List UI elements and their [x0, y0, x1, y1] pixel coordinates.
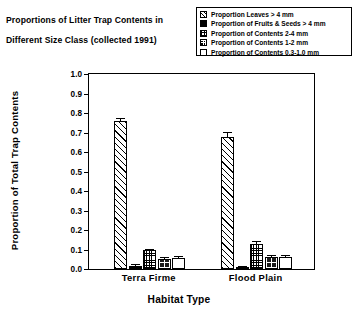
- bar: [250, 244, 263, 269]
- error-bar-stem: [164, 258, 165, 259]
- bar-group: [221, 74, 292, 269]
- bar-group: [114, 74, 185, 269]
- x-axis-group-label-flood-plain: Flood Plain: [196, 272, 316, 283]
- error-bar-stem: [135, 265, 136, 266]
- bar: [143, 250, 156, 269]
- error-bar-stem: [120, 119, 121, 121]
- y-axis-tick: [84, 133, 89, 134]
- y-axis-tick: [84, 172, 89, 173]
- legend-swatch-fruits-seeds-icon: [200, 20, 207, 27]
- y-axis-tick-label: 0.1: [71, 245, 82, 254]
- error-bar-cap: [160, 257, 169, 258]
- y-axis-tick-label: 0.3: [71, 206, 82, 215]
- error-bar-cap: [267, 255, 276, 256]
- error-bar-cap: [131, 264, 140, 265]
- legend-label-contents-2-4mm: Proportion of Contents 2-4 mm: [211, 29, 308, 38]
- legend-item-contents-2-4mm: Proportion of Contents 2-4 mm: [200, 29, 349, 38]
- error-bar-stem: [178, 257, 179, 258]
- y-axis-tick-label: 0.6: [71, 148, 82, 157]
- y-axis-tick: [84, 211, 89, 212]
- error-bar-stem: [149, 250, 150, 251]
- bar: [265, 257, 278, 269]
- y-axis-tick-label: 0.4: [71, 187, 82, 196]
- bar: [279, 257, 292, 269]
- error-bar-cap: [116, 118, 125, 119]
- chart-title-line-2: Different Size Class (collected 1991): [6, 30, 191, 50]
- y-axis-tick: [84, 94, 89, 95]
- legend-item-contents-03-10mm: Proportion of Contents 0.3-1.0 mm: [200, 48, 349, 57]
- y-axis-tick: [84, 230, 89, 231]
- plot-area: 0.00.10.20.30.40.50.60.70.80.91.0: [88, 73, 315, 270]
- x-axis-title: Habitat Type: [0, 294, 358, 305]
- legend-swatch-contents-1-2mm-icon: [200, 39, 207, 46]
- legend-item-leaves: Proportion Leaves > 4 mm: [200, 10, 349, 19]
- y-axis-tick: [84, 152, 89, 153]
- y-axis-tick: [84, 250, 89, 251]
- legend-label-leaves: Proportion Leaves > 4 mm: [211, 10, 294, 19]
- y-axis-tick-label: 0.8: [71, 109, 82, 118]
- chart-figure: Proportions of Litter Trap Contents in D…: [0, 0, 358, 318]
- error-bar-cap: [281, 255, 290, 256]
- legend-label-contents-03-10mm: Proportion of Contents 0.3-1.0 mm: [211, 48, 319, 57]
- legend-item-contents-1-2mm: Proportion of Contents 1-2 mm: [200, 38, 349, 47]
- bar: [114, 121, 127, 269]
- error-bar-cap: [252, 241, 261, 242]
- y-axis-tick: [84, 74, 89, 75]
- x-axis-group-label-terra-firme: Terra Firme: [89, 272, 209, 283]
- chart-legend: Proportion Leaves > 4 mm Proportion of F…: [196, 7, 352, 56]
- bar: [172, 258, 185, 269]
- legend-label-fruits-seeds: Proportion of Fruits & Seeds > 4 mm: [211, 19, 326, 28]
- error-bar-cap: [223, 132, 232, 133]
- bar: [129, 266, 142, 269]
- bar: [221, 137, 234, 269]
- error-bar-stem: [271, 256, 272, 257]
- error-bar-cap: [174, 256, 183, 257]
- y-axis-tick-label: 0.9: [71, 89, 82, 98]
- error-bar-stem: [285, 256, 286, 257]
- legend-item-fruits-seeds: Proportion of Fruits & Seeds > 4 mm: [200, 19, 349, 28]
- y-axis-title: Proportion of Total Trap Contents: [8, 73, 22, 268]
- y-axis-tick-label: 0.7: [71, 128, 82, 137]
- y-axis-tick: [84, 113, 89, 114]
- legend-swatch-contents-2-4mm-icon: [200, 30, 207, 37]
- chart-title: Proportions of Litter Trap Contents in D…: [6, 10, 191, 50]
- error-bar-stem: [227, 133, 228, 137]
- y-axis-tick: [84, 269, 89, 270]
- legend-label-contents-1-2mm: Proportion of Contents 1-2 mm: [211, 38, 308, 47]
- bar: [236, 267, 249, 269]
- y-axis-tick-label: 1.0: [71, 70, 82, 79]
- y-axis-title-text: Proportion of Total Trap Contents: [10, 91, 21, 250]
- bar: [158, 259, 171, 269]
- y-axis-tick-label: 0.2: [71, 226, 82, 235]
- y-axis-tick: [84, 191, 89, 192]
- legend-swatch-contents-03-10mm-icon: [200, 49, 207, 56]
- legend-swatch-leaves-icon: [200, 11, 207, 18]
- error-bar-stem: [256, 242, 257, 244]
- chart-title-line-1: Proportions of Litter Trap Contents in: [6, 10, 191, 30]
- error-bar-cap: [238, 266, 247, 267]
- y-axis-tick-label: 0.0: [71, 265, 82, 274]
- error-bar-cap: [145, 249, 154, 250]
- y-axis-tick-label: 0.5: [71, 167, 82, 176]
